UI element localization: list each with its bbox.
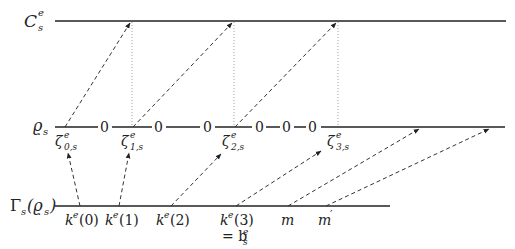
zeta-sub: 3,s	[336, 142, 350, 152]
arrow-zeta0-to-top	[65, 23, 130, 127]
zeta-base: ζ	[121, 133, 130, 149]
arrow-zeta1-to-top	[133, 23, 232, 127]
zeta-base: ζ	[55, 133, 64, 149]
k-label-3: k e (3) = b e s	[220, 210, 254, 247]
row-middle: ϱ s 0 0 0 0 0 0 ζ e 0,s ζ e 1,s ζ e 2,s	[33, 116, 505, 152]
arrow-m-prime-to-middle	[326, 129, 489, 206]
row-bottom-gamma: Γ	[10, 196, 21, 215]
k-arg: (0)	[79, 212, 99, 228]
zeta-sub: 1,s	[130, 142, 144, 152]
zeta-sub: 0,s	[64, 142, 78, 152]
zero-4: 0	[255, 119, 264, 135]
row-bottom-arg: (ϱ	[27, 196, 43, 215]
arrow-k2-to-zeta2	[171, 154, 221, 206]
k-label-1: k e (1)	[105, 210, 139, 228]
arrows-middle-to-top	[65, 23, 336, 127]
zeta-base: ζ	[327, 133, 336, 149]
zero-3: 0	[203, 119, 212, 135]
row-top-label: C	[24, 11, 37, 31]
k-sup: e	[164, 210, 169, 220]
k-sup: e	[228, 210, 233, 220]
arrow-k3-to-zeta3	[236, 151, 321, 206]
row-bottom-argsub: s	[44, 206, 49, 217]
zeta-label-1: ζ e 1,s	[121, 130, 144, 152]
zeta-label-3: ζ e 3,s	[327, 130, 350, 152]
zeta-label-0: ζ e 0,s	[55, 130, 78, 152]
row-top-sup: e	[38, 7, 44, 18]
k-sup: e	[73, 210, 78, 220]
dotted-verticals	[132, 22, 338, 127]
row-bottom-sub: s	[21, 206, 26, 217]
row-bottom: Γ s (ϱ s ) k e (0) k e (1) k e (2) k e (…	[10, 196, 390, 247]
row-top: C e s	[24, 7, 506, 33]
arrow-zeta2-to-top	[235, 23, 336, 127]
arrows-bottom-to-middle	[68, 129, 489, 206]
zeta-sup: e	[336, 130, 341, 140]
row-middle-label: ϱ	[33, 116, 43, 135]
k3-equal-sup: e	[243, 227, 248, 237]
arrow-k1-to-zeta1	[119, 153, 129, 206]
m-label: m	[281, 212, 294, 228]
k-arg: (3)	[234, 212, 254, 228]
arrow-m-to-middle	[288, 129, 419, 206]
zero-6: 0	[308, 119, 317, 135]
zeta-label-2: ζ e 2,s	[222, 130, 245, 152]
k-label-2: k e (2)	[156, 210, 190, 228]
m-base: m	[281, 212, 294, 228]
zeta-sup: e	[64, 130, 69, 140]
zero-2: 0	[154, 119, 163, 135]
diagram-canvas: C e s ϱ s 0 0 0 0 0 0 ζ e 0,s ζ e	[0, 0, 515, 249]
k-label-0: k e (0)	[65, 210, 99, 228]
zeta-sup: e	[130, 130, 135, 140]
k3-equal-sub: s	[243, 237, 248, 247]
zeta-base: ζ	[222, 133, 231, 149]
row-top-sub: s	[38, 22, 43, 33]
m-prime-label: m ′	[318, 208, 333, 228]
zero-1: 0	[100, 119, 109, 135]
arrow-k0-to-zeta0	[68, 153, 80, 206]
k-arg: (1)	[119, 212, 139, 228]
zeta-sub: 2,s	[230, 142, 245, 152]
zero-5: 0	[282, 119, 291, 135]
m-prime-sup: ′	[330, 208, 333, 221]
row-middle-sub: s	[43, 126, 48, 137]
k-sup: e	[113, 210, 118, 220]
k-arg: (2)	[170, 212, 190, 228]
zeta-sup: e	[231, 130, 236, 140]
